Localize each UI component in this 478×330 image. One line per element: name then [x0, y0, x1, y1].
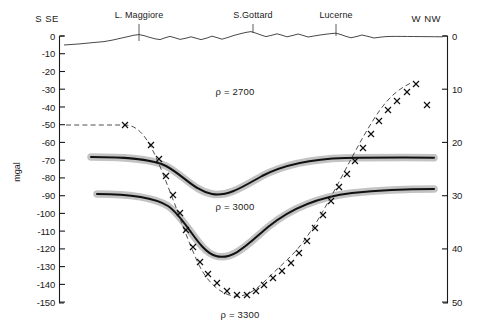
- left-tick-label: -120: [37, 243, 55, 254]
- left-tick-label: -70: [42, 155, 55, 166]
- left-tick-label: -40: [42, 102, 55, 113]
- place-label-lucerne: Lucerne: [319, 10, 352, 20]
- density-label-middle: ρ = 3000: [216, 201, 255, 212]
- left-tick-label: -150: [37, 297, 55, 308]
- left-axis-line: [60, 36, 65, 303]
- right-axis-tick-labels: 0 10 20 30 40 50: [452, 31, 462, 308]
- place-labels: L. Maggiore S.Gottard Lucerne: [115, 10, 353, 20]
- gravity-profile-figure: 0 -10 -20 -30 -40 -50 -60 -70 -80 -90 -1…: [0, 0, 478, 330]
- place-label-s-gottard: S.Gottard: [233, 10, 272, 20]
- left-tick-label: -80: [42, 172, 55, 183]
- density-annotations: ρ = 2700 ρ = 3000 ρ = 3300: [216, 86, 260, 320]
- left-tick-label: -100: [37, 208, 55, 219]
- density-label-upper: ρ = 2700: [216, 86, 255, 97]
- left-tick-label: -50: [42, 119, 55, 130]
- left-tick-label: -90: [42, 190, 55, 201]
- left-axis-tick-labels: 0 -10 -20 -30 -40 -50 -60 -70 -80 -90 -1…: [37, 31, 55, 308]
- left-axis: 0 -10 -20 -30 -40 -50 -60 -70 -80 -90 -1…: [12, 13, 65, 308]
- right-orientation-label: W NW: [412, 13, 441, 24]
- right-tick-label: 20: [452, 137, 462, 148]
- left-tick-label: -20: [42, 66, 55, 77]
- topographic-profile: L. Maggiore S.Gottard Lucerne: [64, 10, 443, 45]
- left-axis-ticks: [60, 36, 66, 302]
- observed-anomaly-outlier-marker: [424, 102, 430, 108]
- left-tick-label: 0: [50, 31, 55, 42]
- lower-interface-line: [97, 189, 434, 257]
- left-tick-label: -110: [37, 226, 55, 237]
- right-axis-ticks: [442, 36, 448, 302]
- left-tick-label: -130: [37, 261, 55, 272]
- place-pointers: [139, 24, 336, 41]
- left-orientation-label: S SE: [35, 13, 59, 24]
- density-label-lower: ρ = 3300: [221, 309, 260, 320]
- left-tick-label: -30: [42, 84, 55, 95]
- right-tick-label: 10: [452, 84, 462, 95]
- right-tick-label: 40: [452, 243, 462, 254]
- right-tick-label: 30: [452, 190, 462, 201]
- right-tick-label: 0: [452, 31, 457, 42]
- figure-canvas: 0 -10 -20 -30 -40 -50 -60 -70 -80 -90 -1…: [0, 0, 478, 330]
- topography-line: [64, 32, 443, 45]
- right-tick-label: 50: [452, 297, 462, 308]
- left-tick-label: -60: [42, 137, 55, 148]
- left-axis-unit-label: mgal: [12, 162, 22, 182]
- place-label-l-maggiore: L. Maggiore: [115, 10, 164, 20]
- left-tick-label: -10: [42, 48, 55, 59]
- left-tick-label: -140: [37, 279, 55, 290]
- interface-curves: [91, 157, 434, 257]
- right-axis-line: [443, 36, 448, 303]
